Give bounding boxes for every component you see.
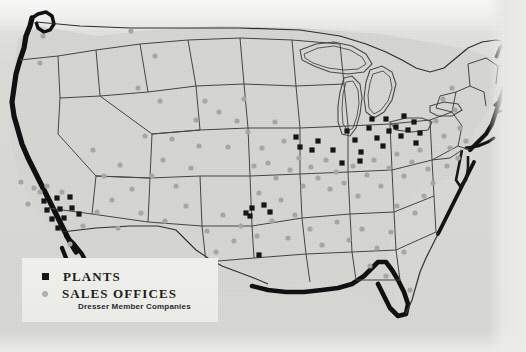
legend-subtitle: Dresser Member Companies — [78, 302, 191, 311]
plant-marker — [380, 143, 385, 148]
sales-office-marker — [94, 209, 99, 214]
plant-marker — [398, 133, 403, 138]
sales-office-marker — [149, 173, 154, 178]
plant-marker — [44, 207, 49, 212]
sales-office-marker — [37, 60, 42, 65]
sales-office-marker — [425, 166, 430, 171]
sales-office-marker — [234, 118, 239, 123]
sales-office-marker — [59, 189, 64, 194]
sales-office-marker — [254, 233, 259, 238]
plant-marker — [41, 198, 46, 203]
plant-marker — [330, 147, 335, 152]
plant-marker — [256, 252, 261, 257]
plant-marker — [261, 202, 266, 207]
map-screenshot: PLANTS SALES OFFICES Dresser Member Comp… — [0, 0, 526, 352]
sales-office-marker — [101, 173, 106, 178]
sales-office-marker — [117, 162, 122, 167]
sales-office-marker — [371, 157, 376, 162]
sales-office-marker — [152, 53, 157, 58]
sales-office-marker — [440, 96, 445, 101]
sales-office-marker — [31, 185, 36, 190]
sales-office-marker — [327, 186, 332, 191]
sales-office-marker — [417, 147, 422, 152]
sales-office-marker — [292, 212, 297, 217]
plant-marker — [413, 140, 418, 145]
sales-office-marker — [109, 197, 114, 202]
sales-office-marker — [138, 210, 143, 215]
sales-office-marker — [449, 85, 454, 90]
sales-office-marker — [386, 165, 391, 170]
plant-marker — [386, 128, 391, 133]
plant-marker — [55, 225, 60, 230]
sales-office-marker — [307, 226, 312, 231]
sales-office-marker — [202, 98, 207, 103]
sales-office-marker — [433, 118, 438, 123]
sales-office-marker — [220, 212, 225, 217]
plant-marker — [267, 209, 272, 214]
sales-office-marker — [157, 98, 162, 103]
sales-office-marker — [334, 219, 339, 224]
sales-office-marker — [388, 229, 393, 234]
plant-marker — [247, 213, 252, 218]
sales-office-marker — [374, 245, 379, 250]
plant-marker — [366, 125, 371, 130]
plant-marker — [293, 134, 298, 139]
sales-office-marker — [37, 189, 42, 194]
sales-office-marker — [115, 225, 120, 230]
legend-label-sales-offices: SALES OFFICES — [62, 287, 177, 300]
sales-office-marker — [265, 160, 270, 165]
sales-office-marker — [333, 169, 338, 174]
sales-office-marker — [315, 175, 320, 180]
plant-marker — [249, 205, 254, 210]
sales-office-marker — [259, 145, 264, 150]
sales-office-marker — [452, 107, 457, 112]
sales-office-marker — [256, 190, 261, 195]
sales-office-marker — [80, 223, 85, 228]
sales-office-marker — [40, 33, 45, 38]
sales-office-marker — [394, 151, 399, 156]
plant-marker — [61, 215, 66, 220]
sales-office-marker — [245, 129, 250, 134]
plant-marker — [339, 160, 344, 165]
sales-office-marker — [285, 235, 290, 240]
sales-office-marker — [378, 183, 383, 188]
sales-office-marker — [273, 175, 278, 180]
plant-marker — [357, 158, 362, 163]
sales-office-marker — [341, 180, 346, 185]
sales-office-marker — [281, 138, 286, 143]
legend-label-plants: PLANTS — [63, 270, 121, 283]
atlantic-southeast-coastline — [406, 234, 438, 314]
bottom-paper-band — [0, 330, 526, 352]
sales-office-marker — [401, 249, 406, 254]
plant-marker — [352, 137, 357, 142]
plant-marker — [393, 124, 398, 129]
sales-office-marker — [173, 183, 178, 188]
sales-office-marker — [162, 218, 167, 223]
sales-office-marker — [278, 197, 283, 202]
sales-office-marker — [457, 125, 462, 130]
sales-office-marker — [319, 242, 324, 247]
sales-office-marker — [142, 133, 147, 138]
sales-office-marker — [401, 173, 406, 178]
sales-office-marker — [25, 201, 30, 206]
plant-marker — [57, 206, 62, 211]
sales-office-marker — [300, 183, 305, 188]
sales-office-marker — [430, 180, 435, 185]
plant-marker — [54, 195, 59, 200]
sales-office-marker — [444, 163, 449, 168]
sales-office-marker — [455, 155, 460, 160]
plant-marker — [417, 130, 422, 135]
plant-marker — [411, 119, 416, 124]
sales-office-marker — [18, 179, 23, 184]
sales-office-marker — [238, 223, 243, 228]
sales-office-marker — [463, 138, 468, 143]
plant-marker — [369, 116, 374, 121]
sales-office-marker — [225, 144, 230, 149]
right-paper-band — [488, 0, 526, 352]
sales-office-marker — [183, 203, 188, 208]
sales-office-marker — [364, 172, 369, 177]
sales-office-marker — [296, 155, 301, 160]
sales-office-marker — [44, 183, 49, 188]
plant-marker — [49, 216, 54, 221]
sales-office-marker — [441, 133, 446, 138]
